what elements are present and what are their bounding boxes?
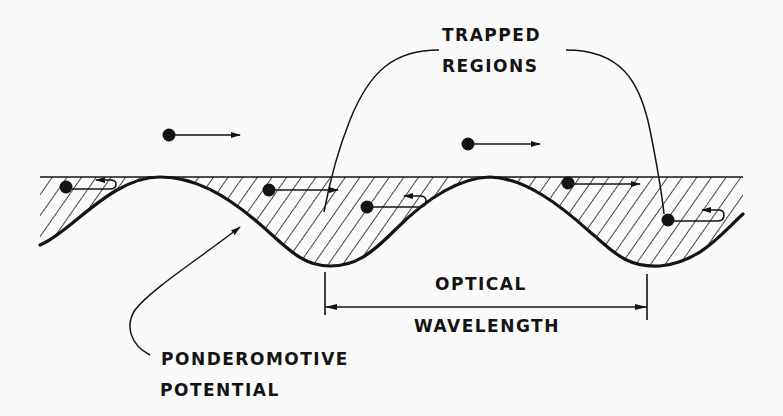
hatched-region [40, 177, 743, 266]
diagram-canvas [0, 0, 783, 416]
trapped-regions-label-line1: TRAPPED [442, 27, 541, 44]
free-particle-left [163, 129, 241, 142]
free-particle-center [462, 138, 541, 151]
optical-wavelength-label-line1: OPTICAL [435, 276, 527, 293]
ponderomotive-potential-label-line1: PONDEROMOTIVE [161, 351, 349, 368]
ponderomotive-trapping-diagram: TRAPPED REGIONS OPTICAL WAVELENGTH PONDE… [0, 0, 783, 416]
ponderomotive-potential-label-line2: POTENTIAL [160, 382, 280, 399]
ponderomotive-leader [130, 227, 240, 355]
optical-wavelength-label-line2: WAVELENGTH [414, 318, 560, 335]
trapped-regions-label-line2: REGIONS [442, 58, 538, 75]
